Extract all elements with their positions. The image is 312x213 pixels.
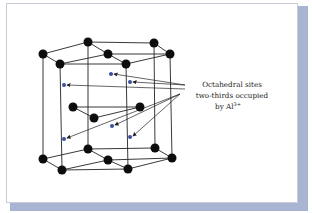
label-line-2: two-thirds occupied xyxy=(196,91,269,100)
hcp-lattice-diagram: Octahedral sites two-thirds occupied by … xyxy=(0,0,312,213)
label-line-1: Octahedral sites xyxy=(202,80,262,89)
label-line-3: by Al3+ xyxy=(215,101,241,111)
atoms xyxy=(39,38,177,175)
